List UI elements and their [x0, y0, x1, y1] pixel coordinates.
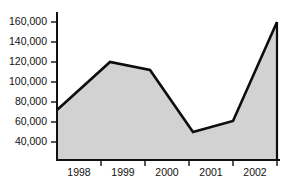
x-tick-label-2001: 2001	[199, 166, 223, 178]
x-tick-label-1998: 1998	[67, 166, 91, 178]
y-tick-label-80000: 80,000	[15, 95, 47, 107]
y-tick-label-40000: 40,000	[15, 135, 47, 147]
y-tick-label-100000: 100,000	[9, 75, 47, 87]
x-axis-group: 1998 1999 2000 2001 2002	[57, 160, 279, 178]
x-tick-label-2000: 2000	[155, 166, 179, 178]
y-axis-group: 160,000 140,000 120,000 100,000 80,000 6…	[9, 13, 57, 160]
y-tick-label-120000: 120,000	[9, 55, 47, 67]
y-tick-label-60000: 60,000	[15, 115, 47, 127]
series-area-fill	[57, 22, 277, 160]
x-tick-label-2002: 2002	[243, 166, 267, 178]
x-tick-label-1999: 1999	[111, 166, 135, 178]
area-chart: 160,000 140,000 120,000 100,000 80,000 6…	[0, 0, 297, 191]
plot-area-fill	[57, 22, 277, 160]
y-tick-label-140000: 140,000	[9, 35, 47, 47]
y-tick-label-160000: 160,000	[9, 15, 47, 27]
chart-container: 160,000 140,000 120,000 100,000 80,000 6…	[0, 0, 297, 191]
